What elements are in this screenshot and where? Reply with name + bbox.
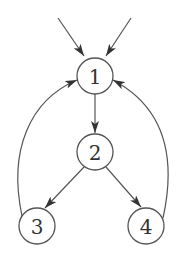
directed-graph: 1 2 3 4 bbox=[0, 0, 180, 255]
node-4-label: 4 bbox=[140, 215, 153, 239]
node-3: 3 bbox=[19, 208, 55, 244]
node-4: 4 bbox=[128, 208, 164, 244]
edge-2-to-4 bbox=[106, 167, 141, 207]
edge-external-left-to-1 bbox=[58, 18, 84, 56]
node-2: 2 bbox=[77, 134, 113, 170]
edge-4-to-1 bbox=[113, 80, 168, 218]
node-3-label: 3 bbox=[31, 215, 44, 239]
edge-3-to-1 bbox=[18, 80, 77, 216]
edge-2-to-3 bbox=[45, 167, 84, 208]
node-1-label: 1 bbox=[89, 65, 102, 89]
node-1: 1 bbox=[77, 58, 113, 94]
node-2-label: 2 bbox=[89, 141, 102, 165]
edge-external-right-to-1 bbox=[106, 18, 131, 56]
